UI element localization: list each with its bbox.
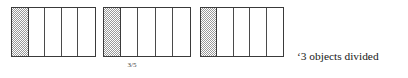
- bar-3-segment-2: [217, 8, 233, 56]
- caption: ‘3 objects divided between 5 people.’: [297, 23, 405, 78]
- caption-line-1: ‘3 objects divided: [297, 50, 405, 64]
- bar-2-segment-1-shaded: [104, 8, 121, 56]
- bar-1-segment-4: [62, 8, 79, 56]
- bar-1-segment-2: [29, 8, 46, 56]
- fraction-label: 3/5: [120, 61, 144, 70]
- division-sharing-diagram: 3/5 ‘3 objects divided between 5 people.…: [0, 0, 408, 78]
- bar-3-segment-5: [267, 8, 283, 56]
- bar-1-segment-5: [78, 8, 95, 56]
- bar-1-segment-3: [45, 8, 62, 56]
- bar-2-segment-2: [121, 8, 138, 56]
- object-bar-1: [11, 7, 96, 57]
- bar-3-segment-4: [250, 8, 266, 56]
- bar-2-segment-5: [173, 8, 190, 56]
- object-bar-2: [103, 7, 191, 57]
- bar-3-segment-3: [234, 8, 250, 56]
- object-bar-3: [200, 7, 284, 57]
- bar-1-segment-1-shaded: [12, 8, 29, 56]
- bar-3-segment-1-shaded: [201, 8, 217, 56]
- bar-2-segment-4: [156, 8, 173, 56]
- bar-2-segment-3: [138, 8, 155, 56]
